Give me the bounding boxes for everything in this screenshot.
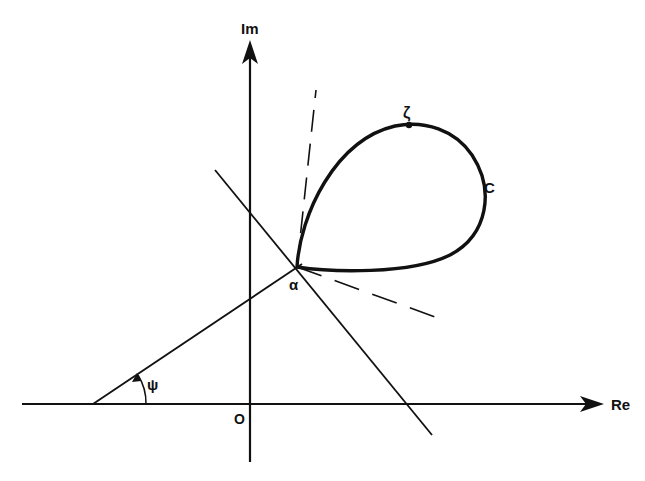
ray-to-alpha xyxy=(93,264,302,404)
origin-label: O xyxy=(234,411,245,427)
imaginary-axis xyxy=(242,40,258,462)
curve-c xyxy=(297,124,485,270)
curve-label: C xyxy=(484,179,495,196)
real-axis xyxy=(22,396,604,412)
angle-psi-label: ψ xyxy=(147,376,158,393)
real-axis-label: Re xyxy=(611,396,630,413)
line-through-alpha xyxy=(215,170,432,435)
zeta-label: ζ xyxy=(403,104,411,122)
imaginary-axis-label: Im xyxy=(241,20,259,37)
complex-plane-diagram: Re Im O ζ C α ψ xyxy=(0,0,645,481)
zeta-point xyxy=(406,122,412,128)
dashed-tangent-lower xyxy=(297,267,438,318)
alpha-label: α xyxy=(289,276,299,293)
angle-psi-marker xyxy=(132,373,146,404)
